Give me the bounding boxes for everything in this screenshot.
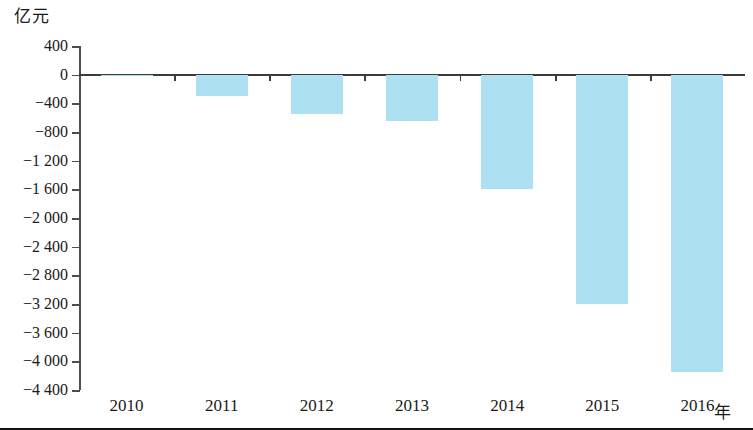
x-axis-label: 2013 — [395, 396, 429, 416]
x-axis-label: 2015 — [585, 396, 619, 416]
bar — [101, 75, 153, 77]
x-axis-label: 2010 — [110, 396, 144, 416]
bar-chart: 亿元 4000−400−800−1 200−1 600−2 000−2 400−… — [0, 0, 753, 430]
y-axis-tick-mark — [72, 390, 80, 392]
x-axis-tick-mark — [174, 74, 176, 81]
bar — [576, 75, 628, 304]
x-axis-label: 2014 — [490, 396, 524, 416]
x-axis-tick-mark — [269, 74, 271, 81]
y-axis-tick-label: −3 200 — [23, 295, 68, 313]
x-axis-unit-label: 年 — [714, 398, 731, 423]
y-axis-tick-label: 400 — [44, 37, 68, 55]
y-axis-tick-label: −2 800 — [23, 266, 68, 284]
x-axis-labels: 2010201120122013201420152016 — [79, 396, 745, 424]
x-axis-tick-mark — [555, 74, 557, 81]
y-axis-tick-label: −800 — [35, 123, 68, 141]
x-axis-label: 2012 — [300, 396, 334, 416]
plot-area: 4000−400−800−1 200−1 600−2 000−2 400−2 8… — [79, 46, 745, 390]
y-axis-tick-label: −2 400 — [23, 238, 68, 256]
bar — [671, 75, 723, 372]
y-axis-unit-label: 亿元 — [14, 2, 50, 27]
x-axis-tick-mark — [460, 74, 462, 81]
x-axis-tick-mark — [650, 74, 652, 81]
bar — [386, 75, 438, 122]
bar — [291, 75, 343, 114]
bar — [196, 75, 248, 97]
y-axis-tick-label: −4 000 — [23, 352, 68, 370]
x-axis-label: 2011 — [205, 396, 238, 416]
y-axis-tick-label: −2 000 — [23, 209, 68, 227]
y-axis-tick-label: −3 600 — [23, 324, 68, 342]
y-axis-tick-label: −1 200 — [23, 152, 68, 170]
y-axis-tick-label: −400 — [35, 94, 68, 112]
y-axis-tick-label: 0 — [60, 66, 68, 84]
bar-series — [79, 46, 745, 390]
bar — [481, 75, 533, 190]
y-axis-tick-label: −4 400 — [23, 381, 68, 399]
x-axis-label: 2016 — [680, 396, 714, 416]
x-axis-tick-mark — [364, 74, 366, 81]
y-axis-tick-label: −1 600 — [23, 180, 68, 198]
